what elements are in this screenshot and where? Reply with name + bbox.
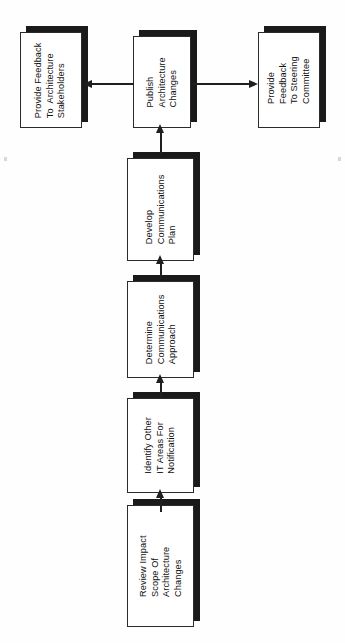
edge-publish-to-stakeholders: [90, 83, 134, 85]
edge-develop-to-publish: [160, 131, 162, 154]
edge-publish-to-stakeholders-arrowhead: [83, 80, 92, 88]
scan-artifact-right: [338, 157, 341, 161]
node-face: [127, 158, 194, 261]
node-face: [133, 36, 191, 128]
node-review-impact-scope[interactable]: Review Impact Scope Of Architecture Chan…: [127, 505, 194, 627]
edge-review-to-identify: [160, 496, 162, 512]
edge-publish-to-steering-arrowhead: [249, 80, 258, 88]
node-determine-communications-approach[interactable]: Determine Communications Approach: [127, 281, 194, 378]
edge-determine-to-develop-arrowhead: [156, 255, 164, 264]
node-face: [127, 281, 194, 378]
scan-artifact-left: [4, 157, 7, 161]
node-develop-communications-plan[interactable]: Develop Communications Plan: [127, 158, 194, 261]
node-publish-architecture-changes[interactable]: Publish Architecture Changes: [133, 36, 191, 128]
edge-review-to-identify-arrowhead: [156, 489, 164, 498]
node-identify-other-it-areas[interactable]: Identify Other IT Areas For Notification: [127, 398, 194, 493]
node-face: [127, 505, 194, 627]
node-face: [258, 32, 320, 128]
edge-determine-to-develop: [160, 262, 162, 279]
node-face: [20, 32, 82, 128]
node-provide-feedback-steering-committee[interactable]: Provide Feedback To Steering Committee: [258, 32, 320, 128]
edge-publish-to-steering: [191, 83, 250, 85]
edge-develop-to-publish-arrowhead: [156, 124, 164, 133]
edge-identify-to-determine: [160, 381, 162, 398]
node-face: [127, 398, 194, 493]
node-provide-feedback-architecture-stakeholders[interactable]: Provide Feedback To Architecture Stakeho…: [20, 32, 82, 128]
edge-identify-to-determine-arrowhead: [156, 374, 164, 383]
diagram-canvas: Review Impact Scope Of Architecture Chan…: [0, 0, 345, 643]
